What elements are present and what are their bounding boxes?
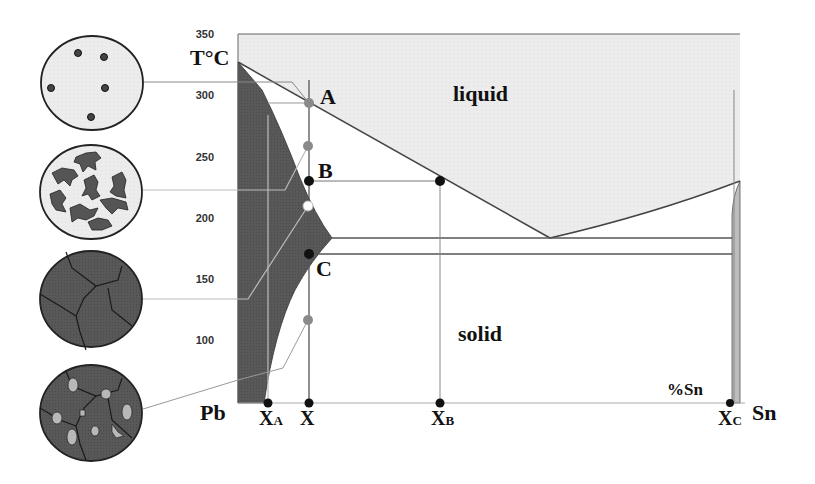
point-a-label: A <box>320 84 336 109</box>
y-tick-150: 150 <box>196 273 214 285</box>
gray-dot-upper <box>303 141 313 151</box>
y-tick-350: 350 <box>196 28 214 40</box>
point-a-dot <box>304 98 314 108</box>
microstructure-precipitates <box>40 365 142 461</box>
xb-label: XB <box>431 407 454 429</box>
point-c-label: C <box>316 256 332 281</box>
x-label: X <box>300 407 315 429</box>
sn-label: Sn <box>752 400 776 425</box>
y-axis-label: T°C <box>190 45 229 70</box>
microstructure-liquid-nuclei <box>41 36 143 130</box>
microstructure-solid-grains <box>40 251 142 350</box>
x-axis-label: %Sn <box>667 380 703 399</box>
connector-4 <box>143 320 308 409</box>
y-tick-300: 300 <box>196 89 214 101</box>
solid-label: solid <box>458 321 502 346</box>
y-tick-200: 200 <box>196 212 214 224</box>
xc-label: XC <box>718 407 742 429</box>
point-c-dot <box>304 249 314 259</box>
microstructure-dendrites <box>40 145 142 239</box>
beta-phase-region <box>732 181 740 403</box>
point-b-label: B <box>318 158 333 183</box>
xa-label: XA <box>259 407 283 429</box>
gray-dot-lower <box>303 315 313 325</box>
white-dot <box>303 201 313 211</box>
y-tick-100: 100 <box>196 334 214 346</box>
alpha-phase-region <box>238 62 332 403</box>
y-tick-250: 250 <box>196 151 214 163</box>
xc-axis-dot <box>726 399 734 407</box>
pb-label: Pb <box>200 400 226 425</box>
phase-diagram: 350 300 250 200 150 100 T°C Pb Sn %Sn li… <box>0 0 815 484</box>
liquid-label: liquid <box>453 81 508 106</box>
point-b-dot <box>304 176 314 186</box>
point-xb-liquidus-dot <box>435 176 445 186</box>
